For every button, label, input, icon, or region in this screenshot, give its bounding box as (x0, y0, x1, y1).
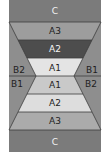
bottom-left-side-label: B1 (11, 79, 23, 89)
bottom-layer-a2-label: A2 (49, 98, 61, 108)
bottom-layer-a3-label: A3 (49, 116, 61, 126)
top-band-c-label: C (52, 6, 58, 16)
top-layer-a2-label: A2 (49, 44, 61, 54)
top-layer-a1-label: A1 (49, 63, 61, 73)
top-left-side-label: B2 (13, 65, 25, 75)
bottom-band-c-label: C (52, 137, 58, 147)
top-right-side-label: B1 (86, 65, 98, 75)
bottom-layer-a1-label: A1 (49, 80, 61, 90)
top-layer-a3-label: A3 (49, 26, 61, 36)
symmetric-funnel-diagram: C A3 A2 A1 B2 B1 B1 B2 A1 A2 A3 C (0, 0, 108, 152)
bottom-right-side-label: B2 (85, 79, 97, 89)
